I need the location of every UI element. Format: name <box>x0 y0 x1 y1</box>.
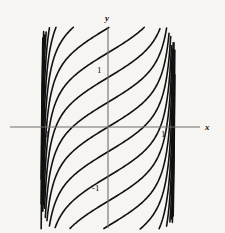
y-tick-label-positive-one: 1 <box>97 66 102 75</box>
x-tick-label-positive-one: 1 <box>161 130 166 139</box>
level-curve <box>55 46 171 228</box>
y-axis-label: y <box>105 14 109 23</box>
x-axis-label: x <box>205 123 210 132</box>
plot-canvas <box>0 0 225 233</box>
x-tick-label-negative-one: -1 <box>42 130 50 139</box>
level-curve <box>44 27 145 205</box>
level-curve <box>70 49 172 228</box>
y-tick-label-negative-one: -1 <box>92 184 100 193</box>
plot-figure: y x 1 -1 1 -1 <box>0 0 225 233</box>
